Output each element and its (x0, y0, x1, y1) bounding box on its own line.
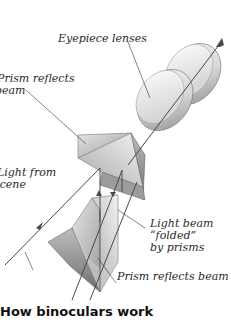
beam-arrowhead-out-icon (216, 38, 224, 47)
label-light-beam-folded-line3: by prisms (150, 242, 204, 254)
diagram-title: How binoculars work (0, 304, 153, 319)
label-light-from-scene-line2: scene (0, 179, 26, 191)
upper-prism (78, 133, 145, 200)
beam-arrowhead-up-icon (96, 190, 102, 196)
label-eyepiece-lenses: Eyepiece lenses (58, 33, 147, 45)
label-prism-reflects-beam-bottom: Prism reflects beam (117, 271, 229, 283)
label-prism-reflects-beam-top-line2: beam (0, 85, 26, 97)
beam-arrowhead-in-icon (36, 222, 43, 230)
